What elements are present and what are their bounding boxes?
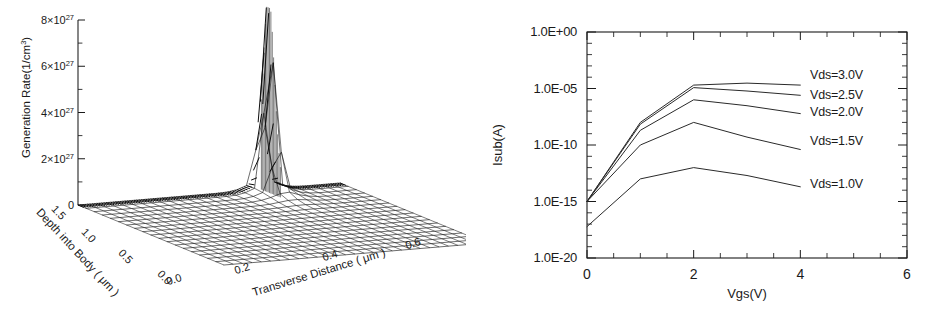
z-tick-6: 6×10 bbox=[41, 60, 66, 72]
surface-z-axis-title: Generation Rate(1/cm3) bbox=[19, 37, 32, 158]
svg-text:2×1027: 2×1027 bbox=[41, 152, 74, 165]
svg-text:6×1027: 6×1027 bbox=[41, 59, 74, 72]
y-tick-label: 1.0E-20 bbox=[534, 250, 578, 265]
line-plot-y-axis-title: Isub(A) bbox=[490, 124, 505, 166]
svg-text:4×1027: 4×1027 bbox=[41, 106, 74, 119]
legend-label-vds-1-5v: Vds=1.5V bbox=[810, 134, 864, 148]
z-tick-8: 8×10 bbox=[41, 14, 66, 26]
z-title-close: ) bbox=[20, 37, 32, 41]
figure-root: 8×1027 6×1027 4×1027 2×1027 0 Generation… bbox=[0, 0, 931, 326]
line-plot-panel: 1.0E-201.0E-151.0E-101.0E-051.0E+00 0246… bbox=[466, 0, 931, 326]
z-tick-0: 0 bbox=[68, 199, 74, 211]
x-tick-label: 4 bbox=[796, 266, 804, 282]
mesh-back-wall-line bbox=[246, 186, 252, 188]
series-line-vds-2-0v bbox=[587, 100, 800, 202]
series-line-vds-2-5v bbox=[587, 88, 800, 202]
line-plot-curves bbox=[587, 83, 800, 227]
series-line-vds-1-0v bbox=[587, 168, 800, 227]
mesh-back-wall-line bbox=[251, 178, 257, 180]
legend-label-vds-2-5v: Vds=2.5V bbox=[810, 88, 864, 102]
y-tick-label: 1.0E-15 bbox=[534, 194, 578, 209]
surface-z-tick-labels: 8×1027 6×1027 4×1027 2×1027 0 bbox=[41, 13, 74, 211]
surface-plot-svg: 8×1027 6×1027 4×1027 2×1027 0 Generation… bbox=[0, 0, 466, 326]
legend-label-vds-3-0v: Vds=3.0V bbox=[810, 68, 864, 82]
x-tick-label: 0 bbox=[583, 266, 591, 282]
z-tick-2: 2×10 bbox=[41, 153, 66, 165]
surface-plot-panel: 8×1027 6×1027 4×1027 2×1027 0 Generation… bbox=[0, 0, 466, 326]
line-plot-x-tick-labels: 0246 bbox=[583, 266, 911, 282]
line-plot-legend: Vds=3.0VVds=2.5VVds=2.0VVds=1.5VVds=1.0V bbox=[810, 68, 864, 191]
mesh-back-wall-line bbox=[249, 184, 255, 185]
y-tick-1: 1.0 bbox=[79, 226, 98, 245]
x-tick-1: 0.2 bbox=[233, 260, 251, 276]
line-plot-x-axis-title: Vgs(V) bbox=[727, 286, 767, 301]
surface-y-axis-title: Depth into Body ( μm ) bbox=[34, 206, 122, 299]
surface-mesh bbox=[78, 7, 466, 268]
x-tick-label: 6 bbox=[903, 266, 911, 282]
series-line-vds-1-5v bbox=[587, 122, 800, 201]
svg-text:8×1027: 8×1027 bbox=[41, 13, 74, 26]
z-tick-8-exp: 27 bbox=[66, 13, 74, 22]
legend-label-vds-2-0v: Vds=2.0V bbox=[810, 105, 864, 119]
line-plot-y-tick-labels: 1.0E-201.0E-151.0E-101.0E-051.0E+00 bbox=[530, 24, 577, 265]
z-tick-6-exp: 27 bbox=[66, 59, 74, 68]
z-title-main: Generation Rate(1/cm bbox=[20, 45, 32, 158]
z-tick-4: 4×10 bbox=[41, 107, 66, 119]
y-tick-2: 0.5 bbox=[116, 247, 135, 266]
line-plot-svg: 1.0E-201.0E-151.0E-101.0E-051.0E+00 0246… bbox=[466, 0, 931, 326]
x-tick-label: 2 bbox=[690, 266, 698, 282]
surface-z-axis bbox=[78, 20, 85, 205]
y-tick-label: 1.0E+00 bbox=[530, 24, 577, 39]
y-tick-label: 1.0E-05 bbox=[534, 81, 578, 96]
z-tick-2-exp: 27 bbox=[66, 152, 74, 161]
y-tick-label: 1.0E-10 bbox=[534, 137, 578, 152]
legend-label-vds-1-0v: Vds=1.0V bbox=[810, 177, 864, 191]
mesh-back-wall-line bbox=[253, 157, 259, 170]
z-tick-4-exp: 27 bbox=[66, 106, 74, 115]
